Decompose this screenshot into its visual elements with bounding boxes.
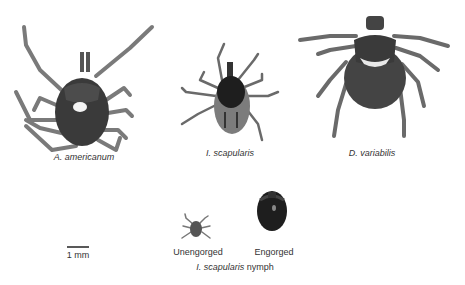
nymph-caption-species: I. scapularis	[196, 262, 244, 272]
a-americanum-body	[55, 52, 109, 146]
unengorged-nymph	[182, 214, 210, 238]
scale-bar-label: 1 mm	[62, 250, 94, 260]
label-engorged: Engorged	[252, 247, 296, 257]
d-variabilis-body	[344, 16, 406, 109]
label-i-scapularis: I. scapularis	[190, 148, 270, 158]
engorged-nymph	[257, 191, 287, 231]
nymph-caption-stage: nymph	[244, 262, 274, 272]
label-d-variabilis: D. variabilis	[332, 148, 412, 158]
nymph-caption: I. scapularis nymph	[180, 262, 290, 272]
label-a-americanum: A. americanum	[40, 152, 128, 162]
label-unengorged: Unengorged	[170, 247, 226, 257]
tick-illustrations	[0, 0, 465, 285]
